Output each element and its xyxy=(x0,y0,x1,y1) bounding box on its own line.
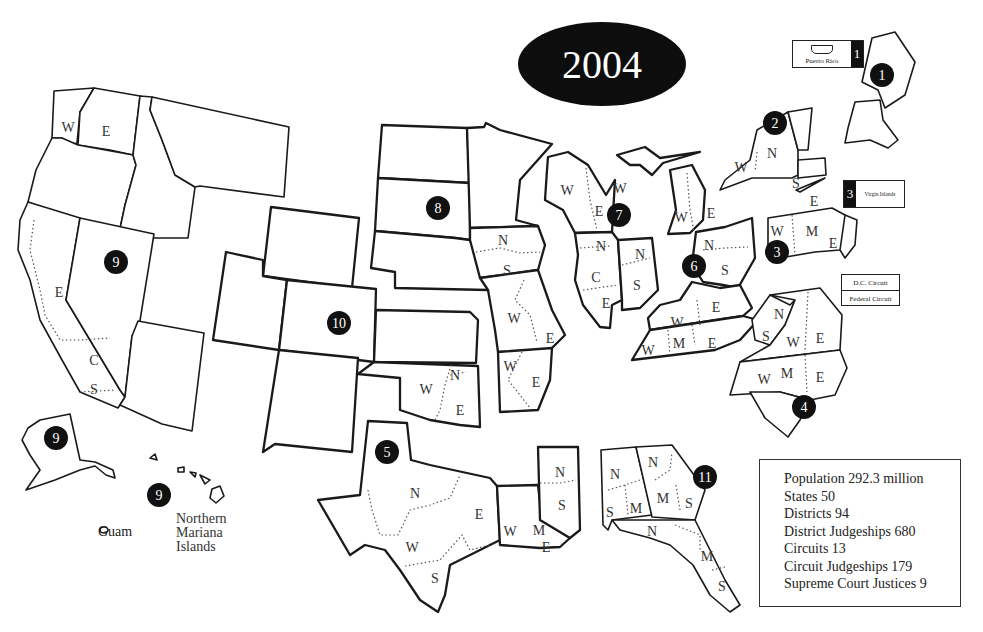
state-long-island xyxy=(796,178,825,192)
state-washington-east xyxy=(78,88,140,155)
circuit-marker: 11 xyxy=(693,465,717,489)
district-label: W xyxy=(674,210,688,225)
state-minnesota xyxy=(467,123,552,228)
state-north-dakota xyxy=(378,125,470,183)
district-label: W xyxy=(613,181,627,196)
district-label: W xyxy=(641,343,655,358)
svg-text:10: 10 xyxy=(332,316,346,331)
puerto-rico-inset: Puerto Rico 1 xyxy=(792,40,864,68)
puerto-rico-label: Puerto Rico xyxy=(805,57,838,65)
district-label: E xyxy=(102,124,111,139)
district-label: N xyxy=(704,238,714,253)
district-label: W xyxy=(734,160,748,175)
state-new-mexico xyxy=(263,350,358,452)
district-label: S xyxy=(792,176,800,191)
circuit-marker: 9 xyxy=(147,483,171,507)
circuit-marker: 8 xyxy=(426,196,450,220)
state-florida xyxy=(612,520,740,612)
virgin-islands-inset: 3 Virgin Islands xyxy=(843,180,905,208)
district-label: W xyxy=(419,382,433,397)
district-label: S xyxy=(718,579,726,594)
district-label: E xyxy=(712,300,721,315)
district-label: N xyxy=(635,247,645,262)
state-south-dakota xyxy=(375,178,470,240)
state-wyoming xyxy=(263,207,359,288)
district-label: N xyxy=(610,467,620,482)
district-label: E xyxy=(456,403,465,418)
district-label: M xyxy=(701,549,714,564)
district-label: S xyxy=(633,278,641,293)
stat-supreme-court-justices: Supreme Court Justices 9 xyxy=(784,575,960,593)
fifth-circuit-states xyxy=(318,421,580,612)
stat-states: States 50 xyxy=(784,488,960,506)
district-label: E xyxy=(708,336,717,351)
svg-text:5: 5 xyxy=(384,445,391,460)
district-label: E xyxy=(475,507,484,522)
district-label: S xyxy=(503,263,511,278)
northern-mariana-islands-label: Northern Mariana Islands xyxy=(176,512,246,554)
district-label: W xyxy=(786,335,800,350)
svg-text:6: 6 xyxy=(691,259,698,274)
district-label: W xyxy=(507,311,521,326)
district-label: S xyxy=(90,382,98,397)
guam-label: Guam xyxy=(98,524,132,540)
circuit-marker: 7 xyxy=(607,203,631,227)
district-label: N xyxy=(596,239,606,254)
district-label: W xyxy=(670,315,684,330)
district-label: N xyxy=(450,368,460,383)
virgin-islands-label: Virgin Islands xyxy=(865,191,896,197)
dc-circuit-label: D.C. Circuit xyxy=(842,275,899,290)
district-label: W xyxy=(770,224,784,239)
district-label: N xyxy=(410,486,420,501)
district-label: E xyxy=(707,206,716,221)
state-wisconsin xyxy=(545,152,615,233)
district-label: S xyxy=(721,263,729,278)
district-label: W xyxy=(757,372,771,387)
district-label: S xyxy=(606,505,614,520)
district-label: S xyxy=(762,329,770,344)
district-label: W xyxy=(560,183,574,198)
state-new-hampshire-ma xyxy=(845,100,898,148)
district-label: N xyxy=(774,307,784,322)
district-label: E xyxy=(542,540,551,555)
svg-text:4: 4 xyxy=(801,400,808,415)
federal-circuit-label: Federal Circuit xyxy=(842,290,899,306)
district-label: E xyxy=(595,204,604,219)
svg-text:9: 9 xyxy=(156,488,163,503)
puerto-rico-circuit-number: 1 xyxy=(851,41,863,67)
svg-text:3: 3 xyxy=(774,245,781,260)
year-badge: 2004 xyxy=(518,22,686,106)
stat-population: Population 292.3 million xyxy=(784,470,960,488)
stat-district-judgeships: District Judgeships 680 xyxy=(784,523,960,541)
svg-text:9: 9 xyxy=(53,431,60,446)
circuit-marker: 3 xyxy=(765,240,789,264)
svg-text:11: 11 xyxy=(698,470,711,485)
district-label: N xyxy=(767,146,777,161)
svg-text:2: 2 xyxy=(772,116,779,131)
district-label: E xyxy=(55,285,64,300)
circuit-marker: 6 xyxy=(682,254,706,278)
district-label: W xyxy=(503,359,517,374)
district-label: E xyxy=(810,194,819,209)
state-arkansas xyxy=(498,348,552,412)
district-label: C xyxy=(591,270,600,285)
state-kansas xyxy=(374,310,478,363)
district-label: E xyxy=(602,296,611,311)
district-label: N xyxy=(648,455,658,470)
stat-districts: Districts 94 xyxy=(784,505,960,523)
district-label: M xyxy=(806,224,819,239)
district-label: E xyxy=(816,370,825,385)
district-label: M xyxy=(781,366,794,381)
state-alaska xyxy=(22,414,115,490)
svg-text:9: 9 xyxy=(113,255,120,270)
district-label: M xyxy=(673,336,686,351)
stat-circuits: Circuits 13 xyxy=(784,540,960,558)
district-label: C xyxy=(89,353,98,368)
state-hawaii xyxy=(210,486,224,503)
district-label: S xyxy=(431,571,439,586)
district-label: E xyxy=(829,236,838,251)
svg-text:7: 7 xyxy=(616,208,623,223)
circuit-marker: 10 xyxy=(327,311,351,335)
dc-federal-circuit-box: D.C. Circuit Federal Circuit xyxy=(841,274,900,306)
district-label: E xyxy=(816,331,825,346)
